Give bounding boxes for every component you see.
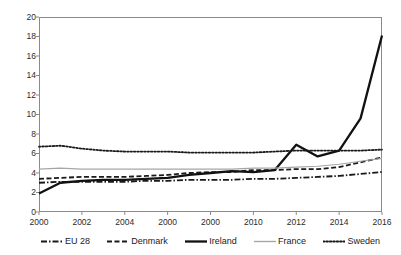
x-axis-tick-label: 2010 <box>236 218 270 227</box>
x-axis-tick-label: 2002 <box>65 218 99 227</box>
x-axis-tick-label: 2012 <box>279 218 313 227</box>
legend-item-france[interactable]: France <box>254 237 306 246</box>
x-axis-tick-label: 2014 <box>322 218 356 227</box>
x-axis-tick-label: 2000 <box>22 218 56 227</box>
legend-label-eu-28: EU 28 <box>65 237 90 246</box>
x-axis-tick-label: 2000 <box>151 218 185 227</box>
legend-item-sweden[interactable]: Sweden <box>323 237 380 246</box>
legend-swatch-france <box>254 237 276 246</box>
x-axis-tick-labels: 200020022004200020002010201220142016 <box>0 0 401 255</box>
chart-legend: EU 28DenmarkIrelandFranceSweden <box>39 232 382 250</box>
legend-label-sweden: Sweden <box>347 237 380 246</box>
line-chart: 02468101214161820 2000200220042000200020… <box>0 0 401 255</box>
legend-item-denmark[interactable]: Denmark <box>107 237 168 246</box>
legend-label-ireland: Ireland <box>209 237 237 246</box>
legend-item-ireland[interactable]: Ireland <box>185 237 237 246</box>
legend-label-denmark: Denmark <box>131 237 168 246</box>
legend-swatch-denmark <box>107 237 129 246</box>
legend-swatch-eu-28 <box>41 237 63 246</box>
legend-swatch-ireland <box>185 237 207 246</box>
x-axis-tick-label: 2016 <box>365 218 399 227</box>
x-axis-tick-label: 2004 <box>108 218 142 227</box>
legend-swatch-sweden <box>323 237 345 246</box>
legend-item-eu-28[interactable]: EU 28 <box>41 237 90 246</box>
legend-label-france: France <box>278 237 306 246</box>
x-axis-tick-label: 2000 <box>194 218 228 227</box>
